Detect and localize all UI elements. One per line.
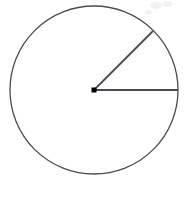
geometry-diagram <box>0 0 188 197</box>
geometry-figure-canvas <box>0 0 188 197</box>
center-point-dot <box>92 88 97 93</box>
radius-diagonal <box>94 31 153 90</box>
